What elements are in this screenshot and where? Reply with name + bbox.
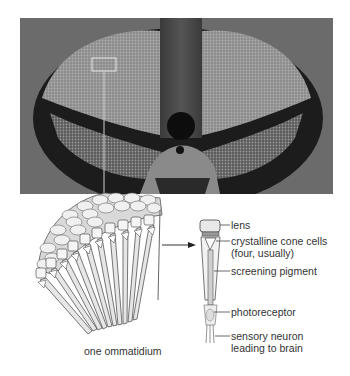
ommatidia-cluster [36, 193, 162, 334]
label-four-usually: (four, usually) [231, 247, 294, 259]
label-crystalline-cone-cells: crystalline cone cells [231, 235, 327, 247]
label-lens: lens [231, 219, 250, 231]
label-leading-to-brain: leading to brain [231, 342, 303, 354]
ommatidia-diagram [0, 0, 350, 376]
caption-one-ommatidium: one ommatidium [84, 345, 162, 357]
label-photoreceptor: photoreceptor [231, 306, 296, 318]
label-sensory-neuron: sensory neuron [231, 330, 303, 342]
single-ommatidium [200, 220, 220, 343]
arrow-head-icon [188, 242, 196, 248]
label-screening-pigment: screening pigment [231, 265, 317, 277]
